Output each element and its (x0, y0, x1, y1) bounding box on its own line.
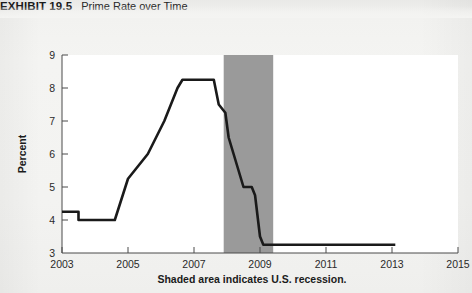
x-tick-label: 2015 (446, 258, 470, 270)
y-axis-tick-labels: 9 8 7 6 5 4 3 (49, 49, 55, 259)
y-tick-label: 5 (49, 181, 55, 193)
y-tick-label: 8 (49, 82, 55, 94)
y-tick-label: 4 (49, 214, 55, 226)
recession-shaded-band (224, 55, 274, 253)
x-tick-label: 2007 (182, 258, 206, 270)
x-tick-label: 2005 (116, 258, 140, 270)
y-axis-title: Percent (16, 134, 28, 173)
y-tick-label: 6 (49, 148, 55, 160)
x-tick-label: 2013 (380, 258, 404, 270)
y-tick-label: 9 (49, 49, 55, 61)
y-tick-label: 7 (49, 115, 55, 127)
x-tick-label: 2011 (315, 258, 338, 270)
x-axis-tick-labels: 2003 2005 2007 2009 2011 2013 2015 (50, 258, 470, 270)
x-tick-label: 2003 (50, 258, 74, 270)
x-tick-label: 2009 (248, 258, 272, 270)
prime-rate-line-chart: 9 8 7 6 5 4 3 Percent 2003 2005 2007 200… (0, 0, 472, 293)
recession-caption: Shaded area indicates U.S. recession. (157, 273, 346, 285)
